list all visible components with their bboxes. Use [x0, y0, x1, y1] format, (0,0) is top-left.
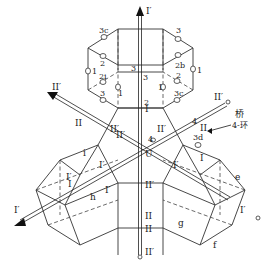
- site-label-3c-right: 3c: [174, 89, 184, 98]
- site-label-3-center: 3: [131, 64, 136, 73]
- face-label-i: i: [83, 148, 86, 158]
- site-label-1-inner-left: 1: [118, 89, 123, 98]
- face-label-f: f: [213, 240, 217, 250]
- site-label-1-right: 1: [197, 66, 202, 75]
- label-Ip-center-left: I′: [105, 185, 111, 195]
- site-label-4-right: 4: [192, 117, 197, 126]
- axis-end-marker: [256, 216, 260, 220]
- site-label-1-inner-right: 1: [158, 83, 163, 92]
- site-label-2-center: 2: [144, 98, 149, 107]
- label-II-lower: II: [145, 224, 153, 234]
- label-II-right: II: [200, 123, 208, 133]
- axis-label-upper-left: II′: [52, 82, 61, 92]
- label-II-left: II: [75, 118, 83, 128]
- annotation-4-ring: 4-环: [232, 121, 248, 130]
- site-label-3d: 3d: [193, 133, 203, 142]
- axis-label-bottom: II′: [145, 247, 154, 257]
- label-I-right: I: [200, 153, 204, 163]
- site-label-2b: 2b: [175, 61, 185, 70]
- center-label: U: [145, 149, 153, 159]
- label-I-left: I: [68, 179, 72, 189]
- site-label-3c-top: 3c: [99, 26, 109, 35]
- arrow-up-icon: [136, 6, 144, 16]
- site-label-1-left: 1: [92, 67, 97, 76]
- annotation-pointer: [209, 125, 231, 131]
- axis-label-upper-right: II′: [214, 92, 223, 102]
- site-label-4-center: 4: [148, 135, 153, 144]
- site-label-2-right: 2: [176, 71, 181, 80]
- labels: I′ II′ II′ I′ I′ II′ U I II′ II′ I′ I′ I…: [14, 6, 248, 257]
- face-label-g: g: [178, 218, 184, 228]
- cage-structure-diagram: I′ II′ II′ I′ I′ II′ U I II′ II′ I′ I′ I…: [0, 0, 271, 271]
- axis-end-marker: [138, 255, 142, 259]
- site-label-2i: 2i: [99, 72, 107, 81]
- central-hexagon: [98, 108, 183, 183]
- face-label-e: e: [235, 172, 240, 182]
- site-label-3-center2: 3: [143, 73, 148, 82]
- diagram-canvas: I′ II′ II′ I′ I′ II′ U I II′ II′ I′ I′ I…: [0, 0, 271, 271]
- left-cage: [36, 145, 118, 255]
- label-IIp-bottom: II′: [145, 180, 154, 190]
- axis-end-marker: [226, 100, 230, 104]
- arrow-downleft-icon: [14, 218, 26, 226]
- axis-label-lower-left: I′: [14, 205, 20, 215]
- label-II-bottom: II: [145, 211, 153, 221]
- symmetry-axes: [14, 6, 260, 259]
- face-label-h: h: [90, 192, 96, 202]
- label-Ip-lr: I′: [173, 160, 179, 170]
- site-label-3-top-right: 3: [176, 26, 181, 35]
- arrow-pointer-icon: [207, 128, 212, 134]
- site-label-2: 2: [100, 59, 105, 68]
- label-Ip-ll: I′: [99, 160, 105, 170]
- annotation-bridge: 桥: [235, 108, 244, 119]
- axis-label-top: I′: [146, 6, 152, 16]
- label-IIp-ur: II′: [157, 124, 166, 134]
- site-label-3-left: 3: [100, 89, 105, 98]
- axis-label-lower-right: I′: [240, 205, 246, 215]
- label-IIp-left: II′: [116, 130, 125, 140]
